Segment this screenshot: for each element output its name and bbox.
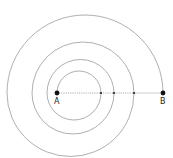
intermediate-dot (100, 92, 102, 94)
spiral-arc-3 (47, 59, 114, 93)
spiral-arc-5 (32, 42, 134, 93)
intermediate-dot (113, 92, 115, 94)
spiral-arc-6 (7, 93, 134, 157)
spiral-diagram (0, 0, 173, 158)
spiral-arc-7 (7, 15, 163, 93)
point-a-label: A (54, 98, 59, 106)
spiral-arcs (7, 15, 163, 157)
point-b-marker (161, 91, 166, 96)
point-a-marker (55, 91, 60, 96)
intermediate-dot (133, 92, 135, 94)
spiral-arc-1 (57, 71, 101, 93)
point-b-label: B (160, 98, 166, 106)
spiral-arc-4 (32, 93, 114, 134)
